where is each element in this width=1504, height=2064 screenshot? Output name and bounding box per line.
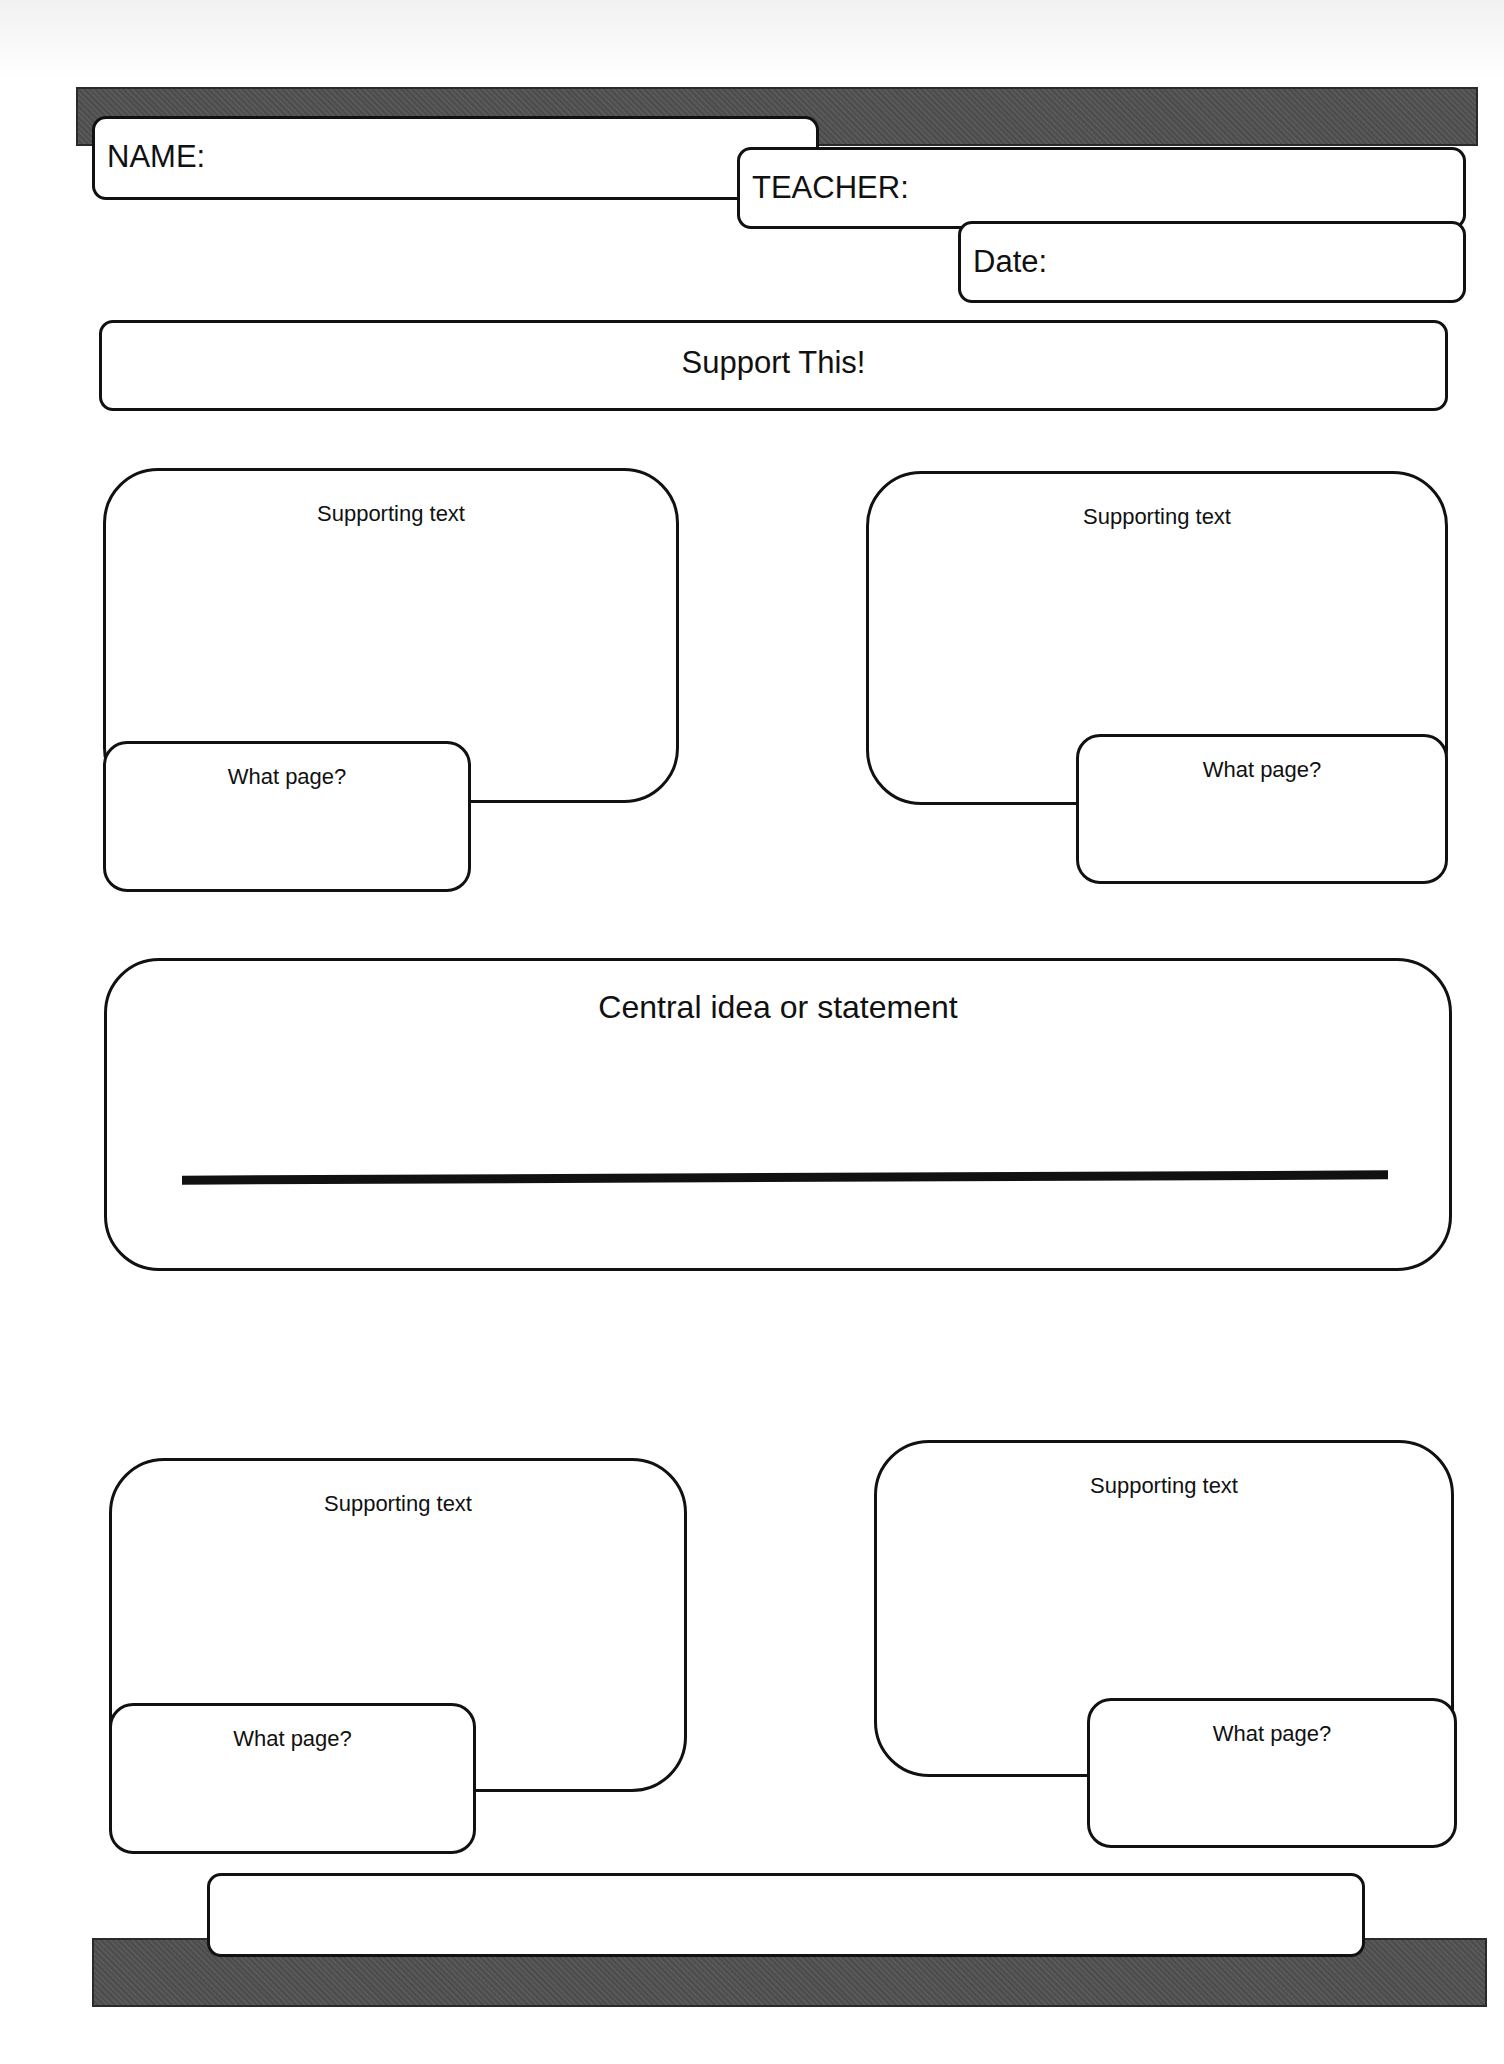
what-page-box-1[interactable]: What page? [103,741,471,892]
date-field[interactable]: Date: [958,221,1466,303]
teacher-label: TEACHER: [752,170,909,206]
scan-shading [0,0,1504,80]
support-this-box[interactable]: Support This! [99,320,1448,411]
what-page-box-4[interactable]: What page? [1087,1698,1457,1848]
supporting-text-label: Supporting text [877,1473,1451,1499]
name-label: NAME: [107,139,205,175]
bottom-answer-box[interactable] [207,1873,1365,1957]
what-page-label: What page? [1090,1721,1454,1747]
central-idea-box[interactable]: Central idea or statement [104,958,1452,1271]
support-this-title: Support This! [102,345,1445,381]
supporting-text-label: Supporting text [112,1491,684,1517]
what-page-box-3[interactable]: What page? [109,1703,476,1854]
what-page-box-2[interactable]: What page? [1076,734,1448,884]
supporting-text-label: Supporting text [869,504,1445,530]
what-page-label: What page? [112,1726,473,1752]
supporting-text-label: Supporting text [106,501,676,527]
date-label: Date: [973,244,1047,280]
central-idea-label: Central idea or statement [107,989,1449,1026]
what-page-label: What page? [1079,757,1445,783]
teacher-field[interactable]: TEACHER: [737,147,1466,229]
what-page-label: What page? [106,764,468,790]
name-field[interactable]: NAME: [92,116,819,200]
central-idea-answer-line [182,1170,1388,1184]
